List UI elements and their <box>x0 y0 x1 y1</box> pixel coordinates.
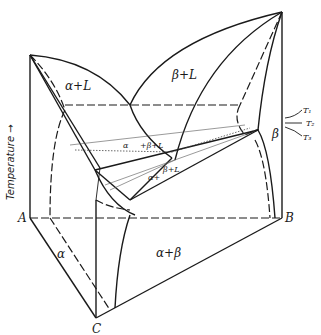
temperature-axis-label: Temperature → <box>5 124 16 200</box>
region-alpha-label: α <box>57 247 65 261</box>
region-alpha-liquid-label: α+L <box>65 79 91 93</box>
vertex-c-label: C <box>92 322 101 335</box>
solvus-a-dashed <box>30 55 65 218</box>
solidus-a-line-2 <box>30 55 100 168</box>
t2-label: T₂ <box>306 119 315 128</box>
solvus-alpha-lower <box>115 215 130 308</box>
solidus-b-line <box>258 12 282 130</box>
base-edge-cb <box>96 218 282 318</box>
alpha-boundary-dashed <box>50 218 110 310</box>
region-three-phase-lower-rest: β+L <box>162 165 180 174</box>
region-beta-label: β <box>271 127 279 141</box>
solidus-a-line-1 <box>30 55 95 170</box>
tie-line-alpha-beta <box>95 130 258 170</box>
t3-label: T₃ <box>303 133 312 142</box>
vertex-b-label: B <box>284 211 294 225</box>
prism-frame <box>30 12 282 318</box>
region-beta-liquid-label: β+L <box>171 68 197 82</box>
temperature-markers: T₁ T₂ T₃ <box>285 106 315 142</box>
vertex-a-label: A <box>17 211 27 225</box>
t1-label: T₁ <box>303 106 312 115</box>
region-alpha-beta-label: α+β <box>156 246 181 260</box>
eutectic-bottom-dashed <box>96 200 130 210</box>
solvus-b-solid <box>258 130 275 218</box>
solvus-b-dashed <box>255 140 270 218</box>
region-three-phase-upper-alpha: α <box>123 141 129 150</box>
solvus-lower <box>50 215 130 310</box>
region-three-phase-upper-rest: +β+L <box>140 141 163 150</box>
solidus-a-lower <box>95 170 135 215</box>
base-edge-ac <box>30 218 96 318</box>
region-three-phase-lower-alpha: α+ <box>148 173 160 182</box>
ternary-phase-diagram: Temperature → A B C α+L β+L α +β+L α+ β+… <box>0 0 321 335</box>
tie-line-left <box>95 170 130 200</box>
t3-pointer <box>285 127 302 136</box>
liquidus-b-curve <box>130 12 282 105</box>
eutectic-valley-curve <box>130 105 172 158</box>
t1-pointer <box>285 110 302 118</box>
solidus-b <box>237 12 282 218</box>
